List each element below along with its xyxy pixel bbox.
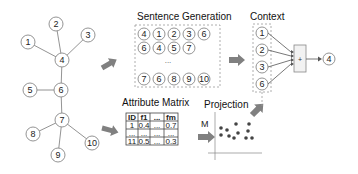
diagram-canvas: 12345678910 Sentence Generation 41236645…: [0, 0, 358, 174]
svg-text:4: 4: [59, 55, 64, 65]
context-title: Context: [250, 11, 285, 22]
svg-text:4: 4: [326, 54, 331, 64]
arrow-to-attribute-matrix: [101, 123, 120, 138]
projection-points: [219, 122, 254, 140]
sentence-token: 7: [183, 42, 195, 54]
sentence-token: 10: [198, 73, 210, 85]
graph-node-9: 9: [51, 148, 65, 162]
svg-text:3: 3: [259, 62, 264, 72]
projection-point: [234, 122, 238, 126]
context-arrowhead: [291, 62, 294, 66]
projection-point: [219, 133, 223, 137]
svg-text:2: 2: [171, 29, 176, 39]
arrow-projection-to-context: [248, 99, 268, 119]
svg-text:9: 9: [186, 74, 191, 84]
matrix-cell: 11: [128, 137, 137, 146]
svg-text:6: 6: [201, 29, 206, 39]
sentence-token: 7: [138, 73, 150, 85]
svg-text:8: 8: [171, 74, 176, 84]
sentence-token: 2: [168, 28, 180, 40]
attribute-matrix-table: IDf1...fm10.4...0.7............110.5...0…: [126, 113, 178, 146]
svg-text:0.3: 0.3: [165, 137, 177, 146]
sentence-token: 1: [153, 28, 165, 40]
projection-point: [232, 136, 236, 140]
context-output-node: 4: [323, 53, 335, 65]
svg-text:5: 5: [171, 43, 176, 53]
arrow-to-sentence-generation: [99, 55, 119, 73]
graph-node-8: 8: [26, 127, 40, 141]
svg-text:6: 6: [259, 79, 264, 89]
projection-point: [246, 129, 250, 133]
sentence-token: 5: [168, 42, 180, 54]
sentence-list: 412366457768910: [138, 28, 210, 85]
graph-node-3: 3: [81, 28, 95, 42]
context-arrowhead: [291, 58, 294, 62]
svg-text:9: 9: [55, 150, 60, 160]
projection-point: [227, 134, 231, 138]
svg-text:5: 5: [27, 85, 32, 95]
graph-node-10: 10: [85, 136, 99, 150]
context-arrowhead: [291, 54, 294, 58]
attribute-matrix-title: Attribute Matrix: [122, 97, 189, 108]
context-input-arrow: [268, 50, 291, 56]
svg-text:6: 6: [141, 43, 146, 53]
sentence-token: 6: [153, 73, 165, 85]
projection-title: Projection: [204, 99, 248, 110]
graph-node-2: 2: [49, 17, 63, 31]
projection-point: [225, 128, 229, 132]
projection-matrix-label: M: [201, 119, 209, 129]
svg-text:4: 4: [156, 43, 161, 53]
svg-text:1: 1: [25, 37, 30, 47]
sentence-token: 4: [138, 28, 150, 40]
context-input-arrow: [268, 60, 291, 67]
svg-text:6: 6: [58, 85, 63, 95]
graph-node-4: 4: [55, 53, 69, 67]
output-arrowhead: [318, 57, 322, 62]
svg-text:7: 7: [59, 115, 64, 125]
sentence-token: 9: [183, 73, 195, 85]
projection-point: [219, 126, 223, 130]
arrow-to-context: [229, 54, 245, 66]
matrix-cell: 0.5: [138, 137, 150, 146]
svg-text:1: 1: [259, 28, 264, 38]
context-inputs: 1236: [256, 27, 294, 90]
sentence-token: 6: [198, 28, 210, 40]
context-input-node: 6: [256, 78, 268, 90]
graph-node-5: 5: [23, 83, 37, 97]
projection-point: [236, 131, 240, 135]
projection-point: [244, 136, 248, 140]
svg-text:2: 2: [53, 19, 58, 29]
context-input-arrow: [268, 33, 291, 52]
sentence-ellipsis: ...: [165, 56, 172, 65]
context-input-node: 1: [256, 27, 268, 39]
svg-text:3: 3: [186, 29, 191, 39]
context-arrowhead: [291, 50, 294, 54]
svg-text:11: 11: [128, 137, 137, 146]
svg-text:7: 7: [141, 74, 146, 84]
arrow-to-projection: [198, 131, 215, 143]
graph-node-1: 1: [21, 35, 35, 49]
svg-text:6: 6: [156, 74, 161, 84]
svg-text:7: 7: [186, 43, 191, 53]
matrix-cell: 0.3: [165, 137, 177, 146]
sentence-token: 8: [168, 73, 180, 85]
sentence-token: 4: [153, 42, 165, 54]
svg-text:2: 2: [259, 45, 264, 55]
svg-text:8: 8: [30, 129, 35, 139]
matrix-cell: ...: [154, 137, 161, 146]
graph-node-6: 6: [54, 83, 68, 97]
svg-text:...: ...: [154, 137, 161, 146]
svg-text:3: 3: [85, 30, 90, 40]
context-input-node: 3: [256, 61, 268, 73]
graph-node-7: 7: [55, 113, 69, 127]
context-input-arrow: [268, 64, 291, 84]
sum-operator: +: [298, 56, 302, 63]
svg-text:10: 10: [199, 74, 209, 84]
svg-text:10: 10: [87, 138, 97, 148]
context-input-node: 2: [256, 44, 268, 56]
svg-text:1: 1: [156, 29, 161, 39]
sentence-generation-title: Sentence Generation: [137, 11, 232, 22]
svg-text:4: 4: [141, 29, 146, 39]
projection-point: [247, 122, 251, 126]
svg-text:0.5: 0.5: [138, 137, 150, 146]
